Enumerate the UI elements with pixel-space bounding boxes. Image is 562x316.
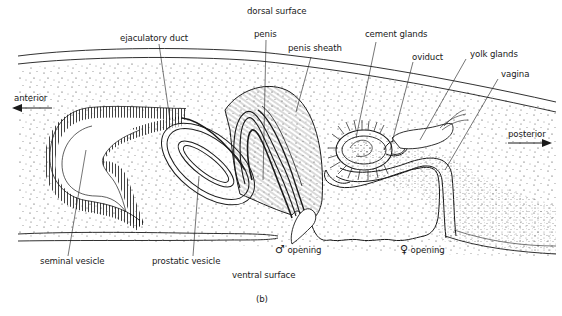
ventral-surface-label: ventral surface [232, 270, 295, 280]
cement-glands-label: cement glands [365, 29, 427, 39]
female-opening-text: opening [411, 245, 445, 255]
penis-label: penis [254, 29, 277, 39]
male-opening-text: opening [287, 245, 321, 255]
anterior-label: anterior [14, 93, 47, 103]
male-opening-label: ♂ opening [275, 245, 321, 255]
posterior-label: posterior [508, 129, 546, 139]
female-symbol-icon: ♀ [400, 243, 408, 256]
oviduct-label: oviduct [412, 52, 443, 62]
vagina-label: vagina [501, 69, 529, 79]
dorsal-surface-label: dorsal surface [247, 6, 306, 16]
flatworm-reproductive-system-diagram [0, 0, 562, 316]
figure-caption: (b) [256, 294, 268, 304]
prostatic-vesicle-label: prostatic vesicle [152, 256, 220, 266]
female-opening-label: ♀ opening [400, 245, 445, 255]
male-symbol-icon: ♂ [275, 243, 285, 256]
penis-sheath-label: penis sheath [288, 43, 342, 53]
seminal-vesicle-label: seminal vesicle [40, 256, 105, 266]
ejaculatory-duct-label: ejaculatory duct [120, 33, 188, 43]
yolk-glands-label: yolk glands [470, 49, 518, 59]
